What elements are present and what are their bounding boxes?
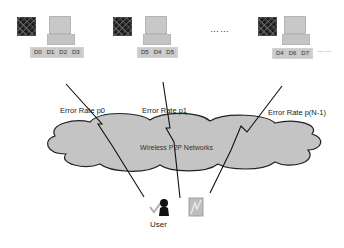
chip: D4 — [152, 48, 164, 57]
computer-monitor-icon — [49, 16, 71, 34]
chip: D2 — [57, 48, 69, 57]
computer-monitor-icon — [284, 16, 306, 34]
computer-base-icon — [143, 34, 171, 45]
chip: D5 — [164, 48, 176, 57]
cloud-shape — [47, 113, 320, 171]
device-icon — [188, 197, 204, 217]
ellipsis-right: …… — [317, 46, 332, 53]
computer-monitor-icon — [145, 16, 167, 34]
chip: D6 — [287, 49, 299, 58]
media-tile-icon — [113, 17, 132, 36]
chip: D7 — [299, 49, 311, 58]
chip: D3 — [70, 48, 82, 57]
ellipsis-middle: …… — [210, 24, 230, 34]
error-rate-pn1-label: Error Rate p(N-1) — [268, 108, 326, 117]
computer-base-icon — [47, 34, 75, 45]
chip: D4 — [274, 49, 286, 58]
media-tile-icon — [17, 17, 36, 36]
user-label: User — [150, 220, 167, 229]
user-silhouette-icon — [158, 198, 170, 216]
chip: D1 — [45, 48, 57, 57]
data-chips: D4 D6 D7 — [272, 48, 313, 59]
chip: D0 — [32, 48, 44, 57]
media-tile-icon — [258, 17, 277, 36]
error-rate-p1-label: Error Rate p1 — [142, 106, 187, 115]
computer-base-icon — [282, 34, 310, 45]
chip: D5 — [139, 48, 151, 57]
error-rate-p0-label: Error Rate p0 — [60, 106, 105, 115]
cloud-label: Wireless P2P Networks — [140, 144, 213, 151]
data-chips: D0 D1 D2 D3 — [30, 47, 84, 58]
data-chips: D5 D4 D5 — [137, 47, 178, 58]
user-node: User — [148, 198, 218, 238]
